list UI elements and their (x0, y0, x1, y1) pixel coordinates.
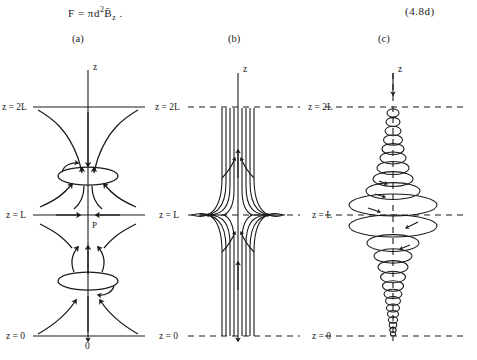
panel-c-loops (349, 109, 437, 336)
panel-c-arrow-2 (406, 222, 418, 228)
panel-c-z-axis-label: z (398, 64, 402, 74)
figure-root: F = πd2B̄z . (4.8d) (a) (b) (c) z z = 2L… (0, 0, 477, 360)
panel-c-label-L: z = L (312, 210, 332, 220)
panel-c-label-0: z = 0 (312, 331, 331, 341)
panel-c-arrow-4 (400, 245, 410, 249)
panel-c-arrow-1 (368, 208, 380, 212)
panel-c-graphic: z z = 2L z = L z = 0 (0, 0, 477, 360)
panel-c-label-2L: z = 2L (308, 102, 333, 112)
